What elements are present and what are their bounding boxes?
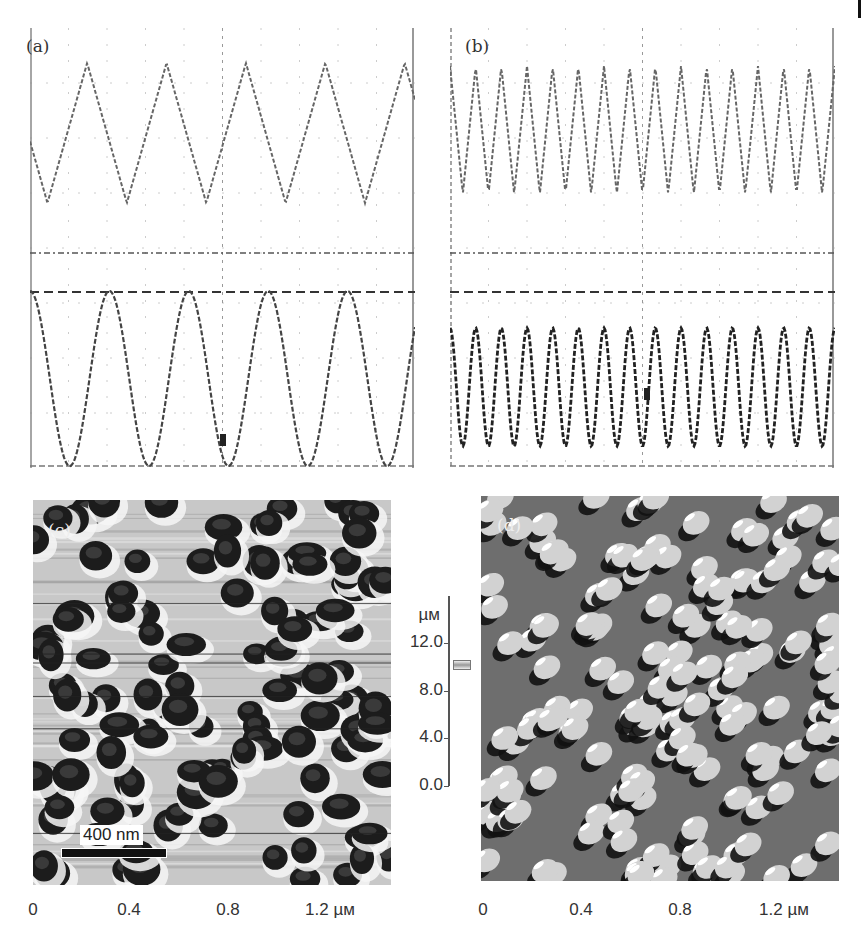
scale-bar xyxy=(61,848,167,858)
colorbar-axis-line xyxy=(448,596,450,786)
x-tick-c-3: 1.2 µм xyxy=(305,900,355,920)
colorbar-unit: µм xyxy=(400,605,440,625)
afm-topography-d xyxy=(481,496,839,881)
panel-a-oscilloscope xyxy=(30,28,415,468)
oscilloscope-trace-a xyxy=(30,28,415,468)
panel-b-oscilloscope xyxy=(450,28,835,468)
scale-bar-label: 400 nm xyxy=(80,825,143,845)
x-tick-c-2: 0.8 xyxy=(216,900,240,920)
oscilloscope-trace-b xyxy=(450,28,835,468)
colorbar-swatch xyxy=(453,660,471,670)
x-tick-d-1: 0.4 xyxy=(569,900,593,920)
x-tick-d-0: 0 xyxy=(478,900,487,920)
panel-d-afm-image xyxy=(481,496,839,881)
panel-label-d: (d) xyxy=(497,515,521,535)
x-tick-d-2: 0.8 xyxy=(668,900,692,920)
panel-label-b: (b) xyxy=(465,36,489,56)
x-tick-c-1: 0.4 xyxy=(117,900,141,920)
panel-label-a: (a) xyxy=(26,36,49,56)
panel-label-c: (c) xyxy=(48,520,71,540)
colorbar-tick-4: 4.0 xyxy=(403,727,443,747)
x-tick-c-0: 0 xyxy=(28,900,37,920)
colorbar-tick-0: 0.0 xyxy=(403,775,443,795)
colorbar-tick-8: 8.0 xyxy=(403,680,443,700)
x-tick-d-3: 1.2 µм xyxy=(759,900,809,920)
colorbar-tick-12: 12.0 xyxy=(403,632,443,652)
colorbar-tick-marks xyxy=(444,643,449,644)
